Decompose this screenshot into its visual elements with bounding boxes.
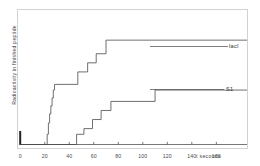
x-tick-label: 20 — [35, 153, 55, 159]
x-tick-label: 0 — [10, 153, 30, 159]
x-tick-label: 60 — [84, 153, 104, 159]
series-line-laci — [20, 40, 247, 144]
plot-area — [0, 0, 260, 166]
x-tick-label: 120 — [157, 153, 177, 159]
series-label-s1: S1 — [226, 86, 233, 92]
x-tick-label: 80 — [108, 153, 128, 159]
series-line-s1 — [20, 90, 247, 144]
x-tick-label: 100 — [133, 153, 153, 159]
x-tick-label: 40 — [59, 153, 79, 159]
series-label-laci: lacI — [229, 43, 239, 49]
chart-container: Radioactivity in finished peptide 020406… — [0, 0, 260, 166]
x-axis-title: t seconds — [196, 153, 221, 159]
series-paths — [20, 40, 247, 144]
